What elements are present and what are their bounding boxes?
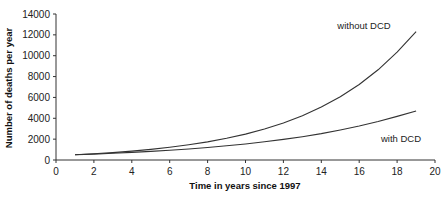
y-axis-title: Number of deaths per year bbox=[3, 28, 14, 149]
series-line-with-dcd bbox=[75, 111, 416, 155]
line-chart: 02000400060008000100001200014000 0246810… bbox=[0, 0, 443, 197]
x-tick-label: 12 bbox=[278, 166, 290, 177]
x-tick-label: 18 bbox=[392, 166, 404, 177]
series-line-without-dcd bbox=[75, 32, 416, 155]
y-tick-label: 14000 bbox=[22, 9, 50, 20]
x-tick-label: 14 bbox=[316, 166, 328, 177]
y-tick-label: 8000 bbox=[28, 71, 51, 82]
x-tick-label: 8 bbox=[205, 166, 211, 177]
x-axis-title: Time in years since 1997 bbox=[189, 180, 300, 191]
y-tick-label: 12000 bbox=[22, 29, 50, 40]
x-tick-label: 2 bbox=[91, 166, 97, 177]
x-tick-label: 6 bbox=[167, 166, 173, 177]
series-lines bbox=[75, 32, 416, 155]
y-tick-label: 4000 bbox=[28, 113, 51, 124]
y-tick-label: 6000 bbox=[28, 92, 51, 103]
y-axis: 02000400060008000100001200014000 bbox=[22, 9, 56, 166]
y-tick-label: 10000 bbox=[22, 50, 50, 61]
x-tick-label: 4 bbox=[129, 166, 135, 177]
x-tick-label: 0 bbox=[53, 166, 59, 177]
y-tick-label: 2000 bbox=[28, 134, 51, 145]
x-tick-label: 10 bbox=[240, 166, 252, 177]
x-axis: 02468101214161820 bbox=[53, 160, 441, 177]
series-label-with-dcd: with DCD bbox=[380, 133, 421, 144]
x-tick-label: 20 bbox=[429, 166, 441, 177]
x-tick-label: 16 bbox=[354, 166, 366, 177]
series-label-without-dcd: without DCD bbox=[336, 20, 390, 31]
y-tick-label: 0 bbox=[44, 155, 50, 166]
